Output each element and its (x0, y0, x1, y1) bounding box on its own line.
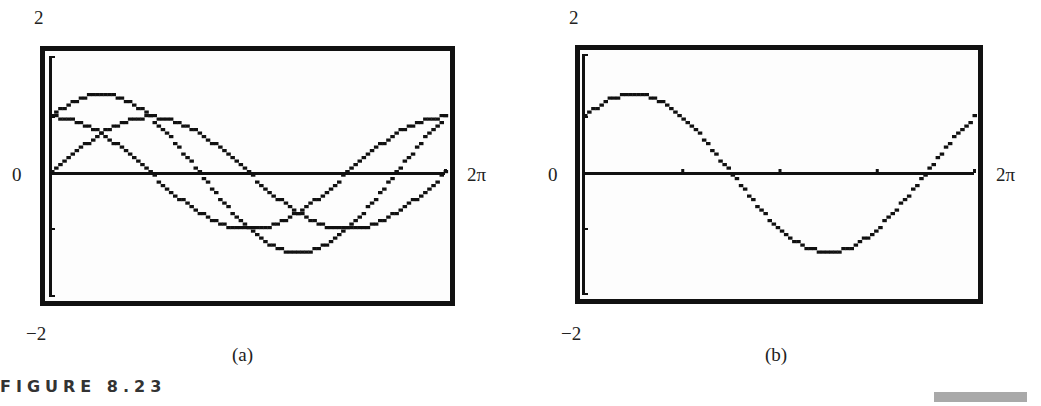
plots-overlay (0, 0, 1041, 406)
panel-b-plot (582, 54, 977, 295)
panel-a-plot (49, 56, 448, 297)
figure-title: FIGURE 8.23 (0, 377, 166, 396)
decorative-bar (934, 392, 1027, 402)
